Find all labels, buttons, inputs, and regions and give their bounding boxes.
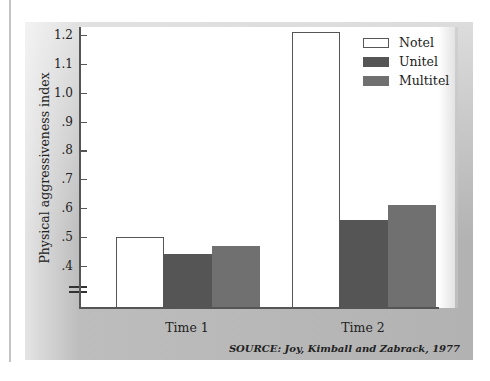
legend-swatch-notel — [363, 38, 389, 48]
plot-area-edge — [438, 27, 458, 308]
y-tick-label: 1.1 — [33, 58, 73, 70]
x-axis — [79, 307, 439, 309]
y-tick-label: .5 — [33, 231, 73, 243]
y-tick — [80, 122, 87, 123]
y-tick-label: 1.0 — [33, 87, 73, 99]
bar-multitel-time-1 — [212, 246, 260, 308]
legend-swatch-unitel — [363, 57, 389, 67]
y-tick-label: 1.2 — [33, 29, 73, 41]
y-tick-label: .4 — [33, 260, 73, 272]
legend-swatch-multitel — [363, 76, 389, 86]
y-tick — [80, 179, 87, 180]
y-tick — [80, 150, 87, 151]
bar-unitel-time-2 — [340, 220, 388, 308]
y-tick — [80, 93, 87, 94]
y-tick-label: .6 — [33, 202, 73, 214]
y-tick-label: .9 — [33, 116, 73, 128]
x-label-time-1: Time 1 — [137, 320, 237, 335]
page-margin-rule — [9, 0, 11, 362]
y-tick — [80, 237, 87, 238]
source-citation: SOURCE: Joy, Kimball and Zabrack, 1977 — [229, 343, 460, 354]
x-label-time-2: Time 2 — [313, 320, 413, 335]
legend-label: Unitel — [399, 54, 438, 69]
y-tick — [80, 35, 87, 36]
axis-break-mark — [69, 291, 87, 293]
y-axis — [79, 27, 81, 309]
legend-label: Notel — [399, 35, 434, 50]
bar-unitel-time-1 — [164, 254, 212, 308]
y-tick — [80, 208, 87, 209]
legend-label: Multitel — [399, 73, 449, 88]
y-tick-label: .7 — [33, 173, 73, 185]
bar-notel-time-2 — [292, 32, 340, 308]
y-tick — [80, 266, 87, 267]
bar-notel-time-1 — [116, 237, 164, 308]
bar-multitel-time-2 — [388, 205, 436, 308]
axis-break-mark — [69, 286, 87, 288]
y-tick — [80, 64, 87, 65]
y-tick-label: .8 — [33, 144, 73, 156]
